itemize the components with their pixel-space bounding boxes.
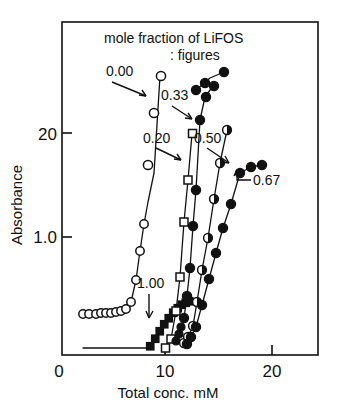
figure-page: 0 10 20 1.0 20 Total conc. mM Absorbance… bbox=[0, 0, 337, 409]
x-tick-label-10: 10 bbox=[156, 362, 175, 381]
series-0-20-point bbox=[177, 323, 185, 331]
annotation-label-0-33: 0.33 bbox=[161, 87, 188, 103]
annotation-label-0-67: 0.67 bbox=[253, 172, 280, 188]
series-0-67-point bbox=[186, 332, 195, 341]
annotation-arrow-0-33 bbox=[172, 106, 192, 119]
series-0-33-point bbox=[180, 218, 188, 226]
series-0-20-point bbox=[201, 92, 210, 101]
series-0-50-point bbox=[223, 126, 232, 135]
series-0-50-point bbox=[210, 195, 219, 204]
series-0-20-point bbox=[209, 81, 218, 90]
x-tick-label-20: 20 bbox=[263, 362, 282, 381]
y-axis-title: Absorbance bbox=[8, 165, 25, 245]
series-0-67-point bbox=[257, 160, 266, 169]
y-tick-label-1-0: 1.0 bbox=[33, 228, 57, 247]
series-0-20-point bbox=[191, 185, 200, 194]
series-0-50-point bbox=[216, 159, 225, 168]
series-0-33-point bbox=[172, 307, 180, 315]
header-line-1: mole fraction of LiFOS bbox=[104, 30, 243, 46]
series-0-00-point bbox=[136, 247, 144, 255]
series-0-00-point bbox=[140, 220, 148, 228]
header-line-2: : figures bbox=[170, 47, 220, 63]
x-axis-title: Total conc. mM bbox=[118, 384, 219, 401]
series-0-67-point bbox=[246, 162, 255, 171]
series-0-20-point bbox=[219, 67, 228, 76]
series-0-67-point bbox=[218, 223, 227, 232]
annotation-1-00: 1.00 bbox=[137, 275, 164, 318]
annotation-0-33: 0.33 bbox=[161, 87, 192, 119]
series-0-67-point bbox=[211, 248, 220, 257]
series-1-00-point bbox=[152, 335, 160, 343]
series-0-00-point bbox=[156, 71, 165, 80]
annotation-0-20: 0.20 bbox=[143, 130, 181, 160]
series-0-20-point bbox=[195, 115, 204, 124]
series-0-00-point bbox=[143, 160, 152, 169]
series-0-67-point bbox=[204, 274, 213, 283]
series-0-67-point bbox=[191, 322, 200, 331]
annotation-arrow-0-00 bbox=[112, 82, 146, 96]
annotation-label-0-20: 0.20 bbox=[143, 130, 170, 146]
y-tick-label-2-0: 20 bbox=[38, 125, 57, 144]
y-axis-ticks bbox=[62, 133, 72, 237]
series-0-33-point bbox=[162, 344, 170, 352]
series-1-00-point bbox=[156, 328, 164, 336]
x-tick-label-0: 0 bbox=[54, 362, 63, 381]
series-0-20-point bbox=[200, 78, 209, 87]
absorbance-vs-total-concentration-chart: 0 10 20 1.0 20 Total conc. mM Absorbance… bbox=[0, 0, 337, 409]
annotation-0-00: 0.00 bbox=[106, 63, 146, 96]
series-0-67-point bbox=[197, 300, 206, 309]
series-0-20-point bbox=[188, 221, 197, 230]
series-0-50-point bbox=[198, 266, 207, 275]
series-0-67-point bbox=[226, 199, 235, 208]
series-0-00-point bbox=[127, 298, 135, 306]
series-0-20-point bbox=[185, 263, 194, 272]
annotation-label-1-00: 1.00 bbox=[137, 275, 164, 291]
series-0-20-point bbox=[179, 313, 188, 322]
series-1-00-point bbox=[147, 343, 155, 351]
series-0-33-point bbox=[184, 176, 192, 184]
annotation-label-0-00: 0.00 bbox=[106, 63, 133, 79]
series-0-33-point bbox=[176, 273, 184, 281]
series-0-20-point bbox=[182, 291, 191, 300]
annotation-label-0-50: 0.50 bbox=[194, 130, 221, 146]
series-0-20-point bbox=[191, 85, 200, 94]
series-0-50-point bbox=[204, 234, 213, 243]
series-0-00-point bbox=[149, 108, 158, 117]
